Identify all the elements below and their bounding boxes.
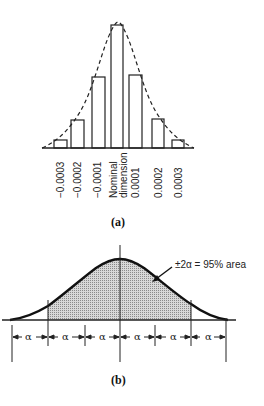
bar-plus-0.0001 bbox=[129, 75, 142, 148]
bar-nominal bbox=[111, 25, 123, 148]
alpha-label: α bbox=[99, 331, 106, 342]
caption-a: (a) bbox=[111, 215, 125, 229]
dashed-normal-curve bbox=[42, 22, 194, 148]
alpha-label: α bbox=[134, 331, 141, 342]
bar-minus-0.0003 bbox=[54, 140, 67, 148]
alpha-label: α bbox=[205, 331, 212, 342]
tick-label: 0.0003 bbox=[173, 167, 184, 198]
alpha-intervals bbox=[13, 335, 225, 339]
tick-label: dimension bbox=[118, 152, 129, 198]
bar-minus-0.0001 bbox=[92, 77, 105, 148]
tick-label: −0.0001 bbox=[92, 161, 103, 198]
normal-curve-b: α α α α α α ±2α = 95% area (b) bbox=[2, 245, 246, 387]
bar-plus-0.0002 bbox=[152, 119, 164, 148]
normal-distribution-figure: −0.0003 −0.0002 −0.0001 Nominal dimensio… bbox=[0, 0, 264, 406]
tick-label: 0.0001 bbox=[130, 167, 141, 198]
annotation-95-area: ±2α = 95% area bbox=[175, 259, 246, 270]
alpha-label: α bbox=[62, 331, 69, 342]
tick-label: 0.0002 bbox=[153, 167, 164, 198]
tick-label: −0.0002 bbox=[72, 161, 83, 198]
caption-b: (b) bbox=[111, 373, 126, 387]
alpha-label: α bbox=[25, 331, 32, 342]
annotation-arrow bbox=[156, 267, 172, 279]
histogram-a: −0.0003 −0.0002 −0.0001 Nominal dimensio… bbox=[42, 22, 194, 229]
tick-label: −0.0003 bbox=[55, 161, 66, 198]
alpha-label: α bbox=[170, 331, 177, 342]
bar-minus-0.0002 bbox=[71, 120, 84, 148]
